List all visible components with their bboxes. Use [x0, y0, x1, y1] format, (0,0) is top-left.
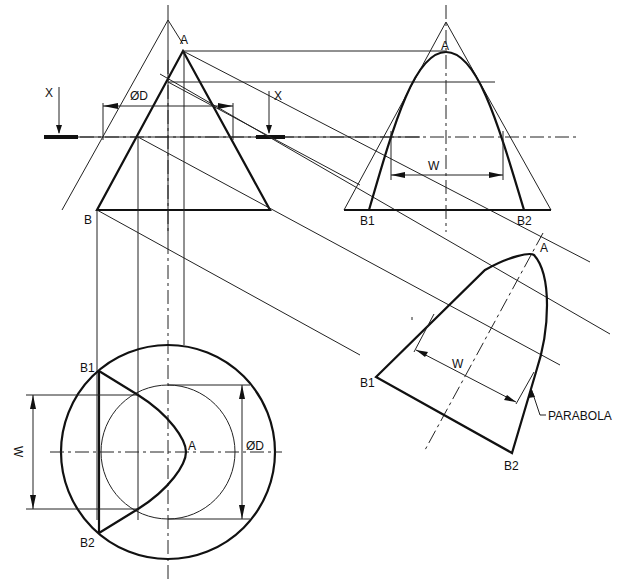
arrow-down-icon: [56, 125, 62, 134]
parabola-cone-section-drawing: A B ØD X X W A B1 B2 W PARABOL: [0, 0, 628, 586]
plan-width-label: W: [11, 446, 25, 458]
plan-view: W ØD A B1 B2: [11, 345, 282, 559]
end-view-b2-label: B2: [517, 214, 532, 228]
end-view-b1-label: B1: [360, 214, 375, 228]
plan-b2-label: B2: [80, 536, 95, 550]
plan-b1-label: B1: [80, 361, 95, 375]
parabola-label: PARABOLA: [548, 409, 612, 423]
elevation-diameter-label: ØD: [130, 89, 148, 103]
end-view-width-label: W: [428, 159, 440, 173]
elevation-apex-label: A: [180, 33, 188, 47]
plan-diameter-label: ØD: [246, 439, 264, 453]
true-shape-apex-label: A: [540, 241, 548, 255]
elevation-base-label: B: [84, 213, 92, 227]
true-shape-b1-label: B1: [360, 376, 375, 390]
plan-apex-label: A: [188, 439, 196, 453]
cut-plane-label-left: X: [45, 86, 53, 100]
elevation-view: A B ØD X X: [44, 5, 610, 580]
true-shape-b2-label: B2: [504, 459, 519, 473]
end-view-apex-label: A: [441, 39, 449, 53]
cut-plane-label-right: X: [274, 89, 282, 103]
arrow-down-icon: [266, 125, 272, 134]
true-shape-view: W PARABOLA A B1 B2: [360, 233, 612, 473]
true-shape-width-label: W: [452, 357, 464, 371]
